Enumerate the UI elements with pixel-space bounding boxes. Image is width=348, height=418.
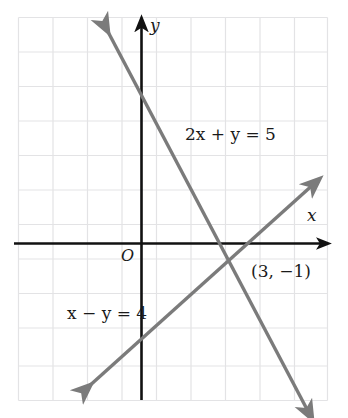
line-equation-label-1: 2x + y = 5 (185, 124, 276, 144)
line-x-minus-y-equals-4 (87, 182, 316, 388)
y-axis-label: y (150, 15, 160, 35)
graph-figure: 2x + y = 5 x − y = 4 (3, −1) x y O (0, 0, 348, 418)
line-equation-label-2: x − y = 4 (67, 303, 147, 323)
intersection-point-label: (3, −1) (251, 261, 311, 281)
x-axis-label: x (307, 205, 317, 225)
grid-lines (19, 18, 328, 401)
origin-label: O (121, 246, 134, 265)
coordinate-plane-svg (0, 0, 348, 418)
